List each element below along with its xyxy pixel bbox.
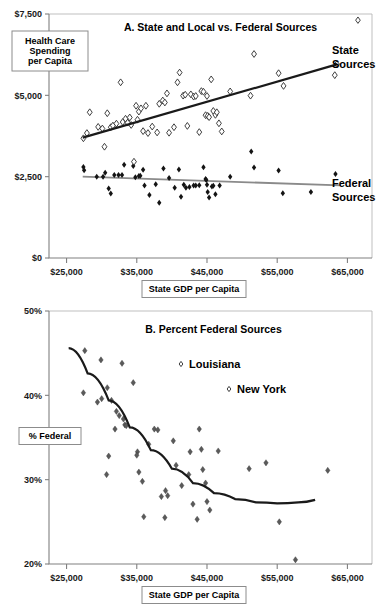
federal-point (309, 189, 313, 195)
panel-b-ytick-label: 50% (24, 306, 42, 316)
federal-pct-point (165, 493, 169, 499)
federal-point (217, 182, 221, 188)
louisiana-legend-label: Louisiana (189, 358, 241, 370)
federal-pct-point (326, 467, 330, 473)
panel-b-xlabel-box-text-0: State GDP per Capita (149, 590, 240, 600)
panel-a-xtick-label: $55,000 (261, 267, 294, 277)
state-point (102, 143, 107, 150)
federal-pct-point (208, 507, 212, 513)
state-point (332, 72, 337, 79)
state-point (252, 51, 257, 58)
chart-canvas: $0$2,500$5,000$7,500$25,000$35,000$45,00… (0, 0, 388, 616)
federal-point (281, 190, 285, 196)
figure-root: $0$2,500$5,000$7,500$25,000$35,000$45,00… (0, 0, 388, 616)
federal-pct-point (114, 408, 118, 414)
state-point (356, 17, 361, 23)
state-point (134, 102, 139, 109)
federal-pct-point (188, 449, 192, 455)
federal-point (154, 181, 158, 187)
federal-point (177, 167, 181, 173)
newyork-legend-label: New York (237, 383, 287, 395)
federal-pct-point (156, 427, 160, 433)
panel-a-xtick-label: $25,000 (50, 267, 83, 277)
state-point (155, 129, 160, 136)
federal-point (205, 182, 209, 188)
panel-a-ytick-label: $5,000 (14, 91, 42, 101)
federal-point (213, 191, 217, 197)
state-point (105, 110, 110, 117)
federal-pct-point (95, 399, 99, 405)
panel-a-ylabel-box-text-2: per Capita (28, 56, 73, 66)
federal-pct-point (171, 438, 175, 444)
federal-point (122, 162, 126, 168)
federal-pct-point (140, 478, 144, 484)
federal-point (228, 174, 232, 180)
federal-pct-point (105, 385, 109, 391)
federal-pct-point (179, 482, 183, 488)
federal-point (142, 182, 146, 188)
federal-pct-point (163, 515, 167, 521)
federal-pct-point (152, 426, 156, 432)
louisiana-legend-marker (179, 361, 183, 366)
federal-pct-point (195, 516, 199, 522)
panel-a-ylabel-box-text-0: Health Care (25, 36, 75, 46)
federal-point (201, 164, 205, 170)
federal-point (187, 184, 191, 190)
panel-b-ytick-label: 40% (24, 391, 42, 401)
panel-b-frame (49, 311, 372, 564)
panel-a-ylabel-box-text-1: Spending (30, 46, 71, 56)
state-point (219, 128, 224, 135)
federal-point (207, 194, 211, 200)
state-point (205, 93, 210, 100)
panel-a-ylabel-box: Health CareSpendingper Capita (12, 31, 88, 71)
panel-b-xtick-label: $45,000 (191, 573, 224, 583)
federal-point (157, 200, 161, 206)
federal-pct-point (99, 357, 103, 363)
state-point (146, 130, 151, 137)
federal-pct-point (205, 498, 209, 504)
state-series-label-1: State (332, 44, 359, 56)
panel-a-xtick-label: $65,000 (331, 267, 364, 277)
panel-b-xlabel-box: State GDP per Capita (142, 587, 246, 604)
panel-b-axes (49, 311, 372, 564)
federal-pct-point (216, 448, 220, 454)
panel-b-title: B. Percent Federal Sources (145, 323, 282, 335)
federal-pct-point (131, 380, 135, 386)
panel-b-ytick-label: 20% (24, 559, 42, 569)
panel-b-xtick-label: $55,000 (261, 573, 294, 583)
federal-series-label-1: Federal (332, 177, 371, 189)
federal-pct-point (159, 493, 163, 499)
federal-pct-point (201, 466, 205, 472)
state-trendline (83, 64, 337, 137)
panel-a-xtick-label: $35,000 (120, 267, 153, 277)
panel-a-ytick-label: $0 (32, 253, 42, 263)
state-point (118, 79, 123, 86)
state-point (185, 123, 190, 130)
state-point (87, 109, 92, 116)
panel-a-ytick-label: $2,500 (14, 172, 42, 182)
panel-b-ylabel-box-text-0: % Federal (29, 431, 72, 441)
federal-pct-point (99, 396, 103, 402)
panel-a-ytick-label: $7,500 (14, 9, 42, 19)
federal-point (276, 167, 280, 173)
federal-point (206, 189, 210, 195)
federal-pct-point (117, 412, 121, 418)
federal-point (197, 182, 201, 188)
newyork-legend-marker (227, 386, 231, 391)
panel-b: 20%30%40%50%$25,000$35,000$45,000$55,000… (19, 306, 372, 603)
state-point (165, 90, 170, 97)
state-point (167, 129, 172, 136)
federal-pct-point (137, 469, 141, 475)
panel-a-frame (49, 14, 372, 258)
state-point (143, 102, 148, 109)
federal-point (109, 191, 113, 197)
federal-point (179, 194, 183, 200)
state-point (150, 123, 155, 130)
panel-b-ylabel-box: % Federal (19, 428, 81, 445)
federal-pct-point (247, 466, 251, 472)
state-point (276, 70, 281, 77)
panel-b-ytick-label: 30% (24, 475, 42, 485)
panel-a-axes (49, 14, 372, 258)
federal-pct-point (277, 519, 281, 525)
federal-pct-point (264, 460, 268, 466)
